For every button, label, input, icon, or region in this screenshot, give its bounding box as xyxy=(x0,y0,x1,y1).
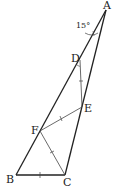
segment-de xyxy=(80,60,82,107)
segment-ac xyxy=(65,10,106,175)
label-b: B xyxy=(6,173,14,186)
geometry-diagram: A B C D E F 15° xyxy=(0,0,121,189)
angle-label: 15° xyxy=(76,21,90,30)
label-e: E xyxy=(84,102,92,115)
angle-arc-a xyxy=(85,33,98,35)
label-d: D xyxy=(71,52,80,65)
segment-fc xyxy=(40,131,65,175)
label-f: F xyxy=(31,124,39,137)
angle-mark-d xyxy=(77,65,80,66)
label-a: A xyxy=(102,0,112,12)
label-c: C xyxy=(63,176,71,189)
